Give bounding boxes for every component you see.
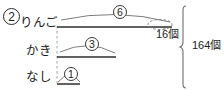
multiplier-kaki: 3 xyxy=(85,37,99,51)
problem-number: 2 xyxy=(3,8,20,25)
multiplier-nashi: 1 xyxy=(64,67,78,81)
row-label-nashi: なし xyxy=(26,71,51,84)
total-bracket xyxy=(180,6,186,88)
row-label-kaki: かき xyxy=(26,45,51,58)
row-label-ringo: りんご xyxy=(20,17,58,30)
multiplier-ringo: 6 xyxy=(113,5,127,19)
segment-value-label: 16個 xyxy=(156,29,179,40)
total-value-label: 164個 xyxy=(192,40,221,51)
diagram-page: 2 りんご かき なし 6 3 1 16個 164個 xyxy=(0,0,224,90)
